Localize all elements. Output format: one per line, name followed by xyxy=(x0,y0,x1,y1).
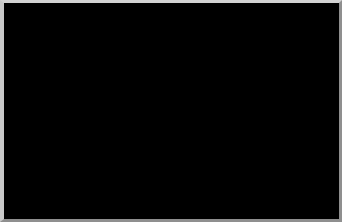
cell-surface-texture xyxy=(108,84,250,144)
micrograph-plate: Fimbriae 1 µm xyxy=(4,3,339,219)
bacterium-micrograph-image xyxy=(4,3,339,219)
scale-bar-label: 1 µm xyxy=(296,191,319,202)
fimbriae-label: Fimbriae xyxy=(18,41,60,53)
sem-micrograph-figure: Fimbriae 1 µm xyxy=(0,0,342,222)
